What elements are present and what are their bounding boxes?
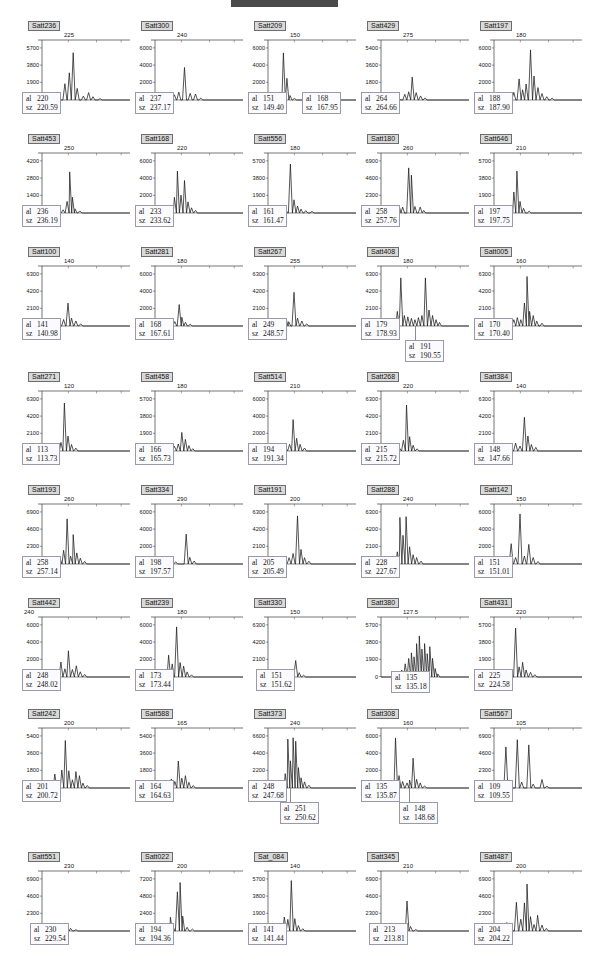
- allele-callout[interactable]: al168sz167.61: [135, 318, 174, 340]
- allele-callout[interactable]: al225sz224.58: [474, 669, 513, 691]
- allele-callout[interactable]: al164sz164.63: [135, 780, 174, 802]
- marker-panel[interactable]: Satt3002406000400020000al237sz237.17: [133, 14, 246, 109]
- marker-panel[interactable]: Sat_0841405700380019000al141sz141.44: [246, 845, 359, 940]
- allele-callout[interactable]: al258sz257.14: [22, 556, 61, 578]
- marker-panel[interactable]: Satt5881655400360018000al164sz164.63: [133, 702, 246, 797]
- allele-callout[interactable]: al161sz161.47: [248, 205, 287, 227]
- allele-callout[interactable]: al264sz264.66: [361, 92, 400, 114]
- allele-callout[interactable]: al220sz220.59: [22, 92, 61, 114]
- marker-panel[interactable]: Satt2882406300420021000al228sz227.67: [359, 478, 472, 573]
- allele-callout[interactable]: al151sz151.62: [256, 669, 295, 691]
- marker-panel[interactable]: Satt3452106900460023000al213sz213.81: [359, 845, 472, 940]
- allele-key: al: [478, 320, 489, 329]
- allele-callout[interactable]: al228sz227.67: [361, 556, 400, 578]
- marker-panel[interactable]: Satt4081806300420021000al179sz178.93al19…: [359, 240, 472, 335]
- svg-text:4000: 4000: [479, 62, 491, 68]
- allele-callout[interactable]: al141sz140.98: [22, 318, 61, 340]
- marker-panel[interactable]: Satt2422005400360018000al201sz200.72: [20, 702, 133, 797]
- marker-panel[interactable]: Satt4292755400360018000al264sz264.66: [359, 14, 472, 109]
- allele-callout[interactable]: al191sz190.55: [405, 340, 444, 362]
- allele-value: 168: [317, 94, 328, 103]
- marker-panel[interactable]: Satt3732406600440022000al248sz247.68al25…: [246, 702, 359, 797]
- allele-callout[interactable]: al135sz135.87: [361, 780, 400, 802]
- marker-panel[interactable]: Satt380127.55700380019000al135sz135.18: [359, 591, 472, 686]
- allele-callout[interactable]: al251sz250.62: [280, 802, 319, 824]
- allele-callout[interactable]: al148sz147.66: [474, 443, 513, 465]
- marker-panel[interactable]: Satt3841406300420021000al148sz147.66: [472, 365, 585, 460]
- allele-callout[interactable]: al141sz141.44: [248, 923, 287, 945]
- marker-panel[interactable]: Satt2672556300420021000al249sz248.57: [246, 240, 359, 335]
- allele-callout[interactable]: al166sz165.73: [135, 443, 174, 465]
- marker-panel[interactable]: Satt1912006300420021000al205sz205.49: [246, 478, 359, 573]
- marker-panel[interactable]: Satt2682206300420021000al215sz215.72: [359, 365, 472, 460]
- marker-panel[interactable]: Satt1932606900460023000al258sz257.14: [20, 478, 133, 573]
- marker-panel[interactable]: Satt1001406300420021000al141sz140.98: [20, 240, 133, 335]
- allele-key: al: [478, 671, 489, 680]
- allele-callout[interactable]: al148sz148.68: [399, 802, 438, 824]
- marker-panel[interactable]: Satt1682206000400020000al233sz233.62: [133, 127, 246, 222]
- allele-callout[interactable]: al230sz229.54: [30, 923, 69, 945]
- allele-callout[interactable]: al194sz194.36: [135, 923, 174, 945]
- allele-callout[interactable]: al236sz236.19: [22, 205, 61, 227]
- allele-callout[interactable]: al237sz237.17: [135, 92, 174, 114]
- svg-text:2100: 2100: [27, 430, 39, 436]
- svg-text:4000: 4000: [140, 62, 152, 68]
- allele-callout[interactable]: al170sz170.40: [474, 318, 513, 340]
- marker-panel[interactable]: Satt5561805700380019000al161sz161.47: [246, 127, 359, 222]
- allele-callout[interactable]: al151sz149.40: [248, 92, 287, 114]
- marker-panel[interactable]: Satt0222007200480024000al194sz194.36: [133, 845, 246, 940]
- marker-panel[interactable]: Satt1421506000400020000al151sz151.01: [472, 478, 585, 573]
- marker-panel[interactable]: Satt4581805700380019000al166sz165.73: [133, 365, 246, 460]
- marker-panel[interactable]: Satt5671056900460023000al109sz109.55: [472, 702, 585, 797]
- allele-callout[interactable]: al205sz205.49: [248, 556, 287, 578]
- allele-callout[interactable]: al248sz248.02: [22, 669, 61, 691]
- marker-panel[interactable]: Satt2711206300420021000al113sz113.73: [20, 365, 133, 460]
- allele-callout[interactable]: al197sz197.75: [474, 205, 513, 227]
- marker-panel[interactable]: Satt1971806000400020000al188sz187.90: [472, 14, 585, 109]
- allele-callout[interactable]: al173sz173.44: [135, 669, 174, 691]
- allele-callout[interactable]: al198sz197.57: [135, 556, 174, 578]
- allele-callout[interactable]: al233sz233.62: [135, 205, 174, 227]
- marker-panel[interactable]: Satt2362255700380019000al220sz220.59: [20, 14, 133, 109]
- marker-panel[interactable]: Satt6462105700380019000al197sz197.75: [472, 127, 585, 222]
- allele-callout[interactable]: al204sz204.22: [474, 923, 513, 945]
- marker-panel[interactable]: Satt0051606300420021000al170sz170.40: [472, 240, 585, 335]
- marker-panel[interactable]: Satt3081606000400020000al135sz135.87al14…: [359, 702, 472, 797]
- allele-callout[interactable]: al194sz191.34: [248, 443, 287, 465]
- marker-panel[interactable]: Satt3301506300420021000al151sz151.62: [246, 591, 359, 686]
- marker-panel[interactable]: Satt4532504200280014000al236sz236.19: [20, 127, 133, 222]
- marker-panel[interactable]: Satt4872006900460023000al204sz204.22: [472, 845, 585, 940]
- marker-panel[interactable]: Satt4422406000400020000al248sz248.02: [20, 591, 133, 686]
- marker-panel[interactable]: Satt1802606900460023000al258sz257.76: [359, 127, 472, 222]
- allele-callout[interactable]: al188sz187.90: [474, 92, 513, 114]
- marker-panel[interactable]: Satt5512306900460023000al230sz229.54: [20, 845, 133, 940]
- callout-leader-line: [290, 788, 291, 802]
- marker-panel[interactable]: Satt5142106000400020000al194sz191.34: [246, 365, 359, 460]
- allele-callout[interactable]: al258sz257.76: [361, 205, 400, 227]
- size-value: 190.55: [420, 351, 441, 360]
- allele-callout[interactable]: al248sz247.68: [248, 780, 287, 802]
- allele-callout[interactable]: al215sz215.72: [361, 443, 400, 465]
- svg-text:2200: 2200: [253, 767, 265, 773]
- svg-text:1400: 1400: [27, 192, 39, 198]
- allele-callout[interactable]: al201sz200.72: [22, 780, 61, 802]
- size-value: 147.66: [489, 454, 510, 463]
- size-axis-label: 180: [516, 32, 526, 38]
- allele-key: al: [252, 320, 263, 329]
- allele-callout[interactable]: al135sz135.18: [391, 671, 430, 693]
- allele-callout[interactable]: al179sz178.93: [361, 318, 400, 340]
- marker-panel[interactable]: Satt2391806000400020000al173sz173.44: [133, 591, 246, 686]
- allele-callout[interactable]: al109sz109.55: [474, 780, 513, 802]
- marker-name-label: Satt431: [480, 598, 512, 608]
- marker-panel[interactable]: Satt4312205700380019000al225sz224.58: [472, 591, 585, 686]
- marker-panel[interactable]: Satt2811806000400020000al168sz167.61: [133, 240, 246, 335]
- allele-callout[interactable]: al151sz151.01: [474, 556, 513, 578]
- allele-callout[interactable]: al168sz167.95: [302, 92, 341, 114]
- header-bar: [231, 0, 338, 7]
- size-axis-label: 200: [64, 720, 74, 726]
- marker-panel[interactable]: Satt3342906000400020000al198sz197.57: [133, 478, 246, 573]
- marker-panel[interactable]: Satt2091506000400020000al151sz149.40al16…: [246, 14, 359, 109]
- allele-callout[interactable]: al113sz113.73: [22, 443, 60, 465]
- allele-callout[interactable]: al249sz248.57: [248, 318, 287, 340]
- allele-callout[interactable]: al213sz213.81: [369, 923, 408, 945]
